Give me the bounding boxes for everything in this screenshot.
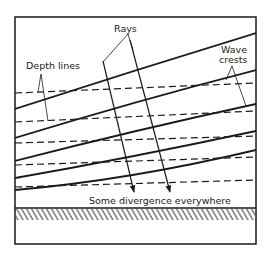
rays-leader bbox=[128, 34, 133, 50]
wave-crests-leader bbox=[232, 66, 246, 106]
divergence-caption: Some divergence everywhere bbox=[89, 195, 231, 206]
depth-lines-label: Depth lines bbox=[26, 60, 80, 71]
depth-lines-leader bbox=[41, 74, 48, 121]
rays-label: Rays bbox=[114, 23, 137, 34]
wave-refraction-diagram: Rays Depth lines Wave crests Some diverg… bbox=[0, 0, 271, 256]
wave-crest bbox=[15, 131, 256, 178]
depth-line bbox=[15, 83, 256, 93]
leader-lines bbox=[38, 34, 246, 121]
shoreline bbox=[15, 208, 256, 220]
wave-crest bbox=[15, 33, 256, 109]
wave-crest bbox=[15, 104, 256, 161]
wave-crest bbox=[15, 70, 256, 138]
ray-1 bbox=[103, 61, 134, 192]
depth-lines-leader bbox=[38, 74, 41, 92]
wave-crests-label-line2: crests bbox=[219, 54, 247, 65]
rays-leader bbox=[103, 34, 128, 62]
shore-hatching bbox=[16, 209, 255, 220]
